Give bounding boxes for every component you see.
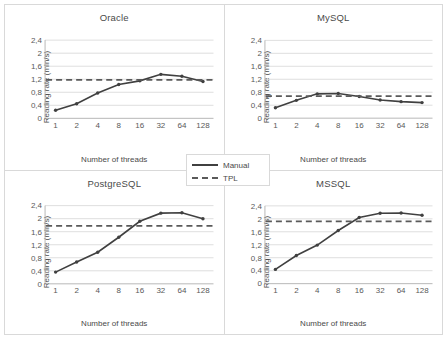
x-tick-label: 64 bbox=[177, 286, 186, 295]
y-tick-label: 0,8 bbox=[250, 253, 262, 262]
x-tick-label: 32 bbox=[375, 286, 384, 295]
y-tick-label: 1,2 bbox=[250, 240, 262, 249]
plot-area-oracle: 00,40,81,21,622,41248163264128 bbox=[19, 25, 220, 144]
data-point-marker bbox=[399, 211, 402, 214]
data-point-marker bbox=[180, 75, 183, 78]
legend-swatch-tpl-icon bbox=[192, 177, 218, 179]
x-tick-label: 16 bbox=[354, 286, 363, 295]
y-tick-label: 0,4 bbox=[31, 101, 43, 110]
x-tick-label: 8 bbox=[336, 286, 341, 295]
data-point-marker bbox=[96, 91, 99, 94]
data-point-marker bbox=[357, 215, 360, 218]
legend-label-manual: Manual bbox=[223, 161, 249, 170]
data-point-marker bbox=[315, 92, 318, 95]
data-point-marker bbox=[75, 102, 78, 105]
data-point-marker bbox=[96, 250, 99, 253]
data-point-marker bbox=[159, 211, 162, 214]
y-tick-label: 0,4 bbox=[250, 266, 262, 275]
chart-panel-oracle: Oracle Reading rate (mln/s) 00,40,81,21,… bbox=[4, 4, 224, 170]
y-tick-label: 0,8 bbox=[31, 88, 43, 97]
y-tick-label: 0 bbox=[38, 279, 43, 288]
data-point-marker bbox=[315, 243, 318, 246]
x-tick-label: 2 bbox=[74, 286, 79, 295]
x-tick-label: 2 bbox=[74, 121, 79, 130]
y-tick-label: 0,8 bbox=[250, 88, 262, 97]
legend-item-manual: Manual bbox=[192, 159, 249, 171]
x-tick-label: 32 bbox=[375, 121, 384, 130]
data-point-marker bbox=[75, 260, 78, 263]
legend-label-tpl: TPL bbox=[223, 174, 238, 183]
x-tick-label: 8 bbox=[336, 121, 341, 130]
chart-panel-mssql: MSSQL Reading rate (mln/s) 00,40,81,21,6… bbox=[224, 170, 444, 336]
x-tick-label: 32 bbox=[156, 121, 165, 130]
y-tick-label: 2 bbox=[257, 49, 262, 58]
legend-item-tpl: TPL bbox=[192, 172, 238, 184]
x-tick-label: 128 bbox=[196, 121, 210, 130]
data-point-marker bbox=[273, 267, 276, 270]
x-tick-label: 4 bbox=[315, 286, 320, 295]
data-point-marker bbox=[399, 100, 402, 103]
plot-area-mssql: 00,40,81,21,622,41248163264128 bbox=[239, 191, 439, 309]
x-tick-label: 128 bbox=[415, 286, 429, 295]
y-tick-label: 2 bbox=[38, 49, 43, 58]
x-tick-label: 1 bbox=[53, 286, 58, 295]
x-tick-label: 64 bbox=[396, 286, 405, 295]
x-tick-label: 128 bbox=[196, 286, 210, 295]
plot-area-mysql: 00,40,81,21,622,41248163264128 bbox=[239, 25, 439, 144]
x-tick-label: 16 bbox=[354, 121, 363, 130]
x-tick-label: 4 bbox=[95, 286, 100, 295]
x-tick-label: 64 bbox=[177, 121, 186, 130]
x-tick-label: 8 bbox=[117, 121, 122, 130]
data-point-marker bbox=[138, 219, 141, 222]
y-tick-label: 2 bbox=[257, 214, 262, 223]
chart-panel-mysql: MySQL Reading rate (mln/s) 00,40,81,21,6… bbox=[224, 4, 444, 170]
x-tick-label: 4 bbox=[315, 121, 320, 130]
x-tick-label: 16 bbox=[135, 286, 144, 295]
y-tick-label: 2,4 bbox=[31, 201, 43, 210]
y-tick-label: 1,2 bbox=[31, 240, 43, 249]
x-tick-label: 1 bbox=[273, 121, 278, 130]
figure-root: Oracle Reading rate (mln/s) 00,40,81,21,… bbox=[0, 0, 447, 339]
y-tick-label: 1,6 bbox=[250, 62, 262, 71]
x-tick-label: 64 bbox=[396, 121, 405, 130]
data-point-marker bbox=[378, 211, 381, 214]
y-tick-label: 0,8 bbox=[31, 253, 43, 262]
chart-title-oracle: Oracle bbox=[5, 12, 224, 23]
y-tick-label: 1,6 bbox=[250, 227, 262, 236]
x-tick-label: 2 bbox=[294, 121, 299, 130]
data-point-marker bbox=[294, 253, 297, 256]
y-tick-label: 2,4 bbox=[250, 201, 262, 210]
data-point-marker bbox=[378, 98, 381, 101]
chart-panel-postgresql: PostgreSQL Reading rate (mln/s) 00,40,81… bbox=[4, 170, 224, 336]
y-tick-label: 1,6 bbox=[31, 227, 43, 236]
x-tick-label: 16 bbox=[135, 121, 144, 130]
x-tick-label: 128 bbox=[415, 121, 429, 130]
data-point-marker bbox=[336, 92, 339, 95]
data-point-marker bbox=[273, 106, 276, 109]
plot-area-postgresql: 00,40,81,21,622,41248163264128 bbox=[19, 191, 220, 309]
y-tick-label: 1,2 bbox=[250, 75, 262, 84]
chart-legend: Manual TPL bbox=[186, 154, 270, 186]
x-axis-label-postgresql: Number of threads bbox=[5, 319, 224, 328]
x-tick-label: 8 bbox=[117, 286, 122, 295]
y-tick-label: 2 bbox=[38, 214, 43, 223]
data-point-marker bbox=[420, 213, 423, 216]
x-tick-label: 1 bbox=[53, 121, 58, 130]
data-point-marker bbox=[54, 270, 57, 273]
x-tick-label: 32 bbox=[156, 286, 165, 295]
y-tick-label: 1,2 bbox=[31, 75, 43, 84]
x-axis-label-mssql: Number of threads bbox=[225, 319, 443, 328]
y-tick-label: 0 bbox=[257, 114, 262, 123]
data-point-marker bbox=[420, 101, 423, 104]
data-point-marker bbox=[54, 108, 57, 111]
x-tick-label: 1 bbox=[273, 286, 278, 295]
data-point-marker bbox=[117, 83, 120, 86]
x-tick-label: 4 bbox=[95, 121, 100, 130]
y-tick-label: 0,4 bbox=[31, 266, 43, 275]
x-tick-label: 2 bbox=[294, 286, 299, 295]
y-tick-label: 2,4 bbox=[31, 36, 43, 45]
legend-swatch-manual-icon bbox=[192, 164, 218, 166]
data-point-marker bbox=[294, 99, 297, 102]
y-tick-label: 0,4 bbox=[250, 101, 262, 110]
y-tick-label: 0 bbox=[257, 279, 262, 288]
